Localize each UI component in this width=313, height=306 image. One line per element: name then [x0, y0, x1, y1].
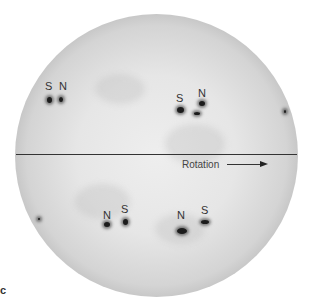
equator-line	[16, 154, 297, 155]
panel-label: c	[0, 284, 6, 296]
sunspot	[38, 218, 40, 220]
polarity-label: S	[45, 81, 52, 92]
sunspot	[201, 220, 209, 224]
polarity-label: S	[121, 204, 128, 215]
rotation-arrow-shaft	[227, 164, 261, 165]
sunspot	[194, 112, 200, 115]
sunspot	[104, 222, 110, 227]
sun-disk	[15, 14, 298, 297]
sunspot	[123, 219, 128, 225]
sunspot	[284, 110, 286, 113]
rotation-arrow-icon	[260, 161, 268, 167]
sunspot	[177, 228, 187, 234]
polarity-label: N	[198, 88, 206, 99]
granulation	[165, 124, 225, 164]
rotation-label: Rotation	[182, 159, 219, 170]
sunspot	[199, 101, 205, 106]
polarity-label: S	[201, 205, 208, 216]
polarity-label: N	[59, 81, 67, 92]
sunspot	[59, 97, 63, 102]
sunspot	[47, 97, 52, 103]
granulation	[95, 74, 145, 104]
polarity-label: N	[103, 210, 111, 221]
sunspot	[177, 107, 184, 113]
polarity-label: N	[177, 210, 185, 221]
polarity-label: S	[176, 93, 183, 104]
